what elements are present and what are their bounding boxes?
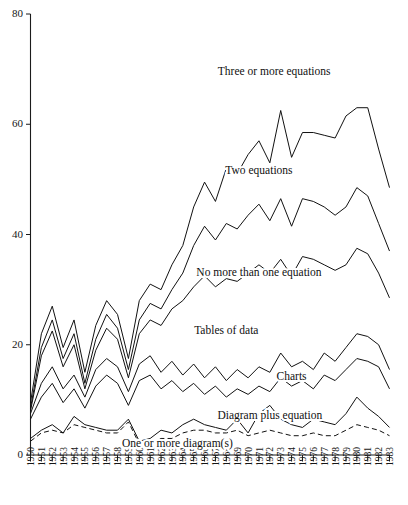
x-tick-label: 1951	[37, 447, 47, 466]
x-tick-label: 1982	[374, 447, 384, 466]
series-line-1	[31, 188, 390, 409]
x-tick-label: 1978	[331, 447, 341, 466]
y-tick-label: 60	[12, 117, 24, 129]
y-tick-label: 40	[12, 228, 24, 240]
x-tick-label: 1954	[70, 447, 80, 466]
x-tick-label: 1967	[211, 447, 221, 466]
x-tick-label: 1966	[200, 447, 210, 466]
x-tick-label: 1983	[385, 447, 395, 466]
series-label-3: Tables of data	[194, 324, 258, 336]
x-tick-label: 1964	[178, 447, 188, 466]
x-tick-label: 1981	[363, 447, 373, 466]
series-line-0	[31, 108, 390, 403]
x-tick-label: 1963	[168, 447, 178, 466]
x-tick-label: 1956	[91, 447, 101, 466]
y-tick-label: 20	[12, 338, 24, 350]
x-tick-label: 1953	[59, 447, 69, 466]
series-label-2: No more than one equation	[196, 266, 321, 279]
x-tick-label: 1957	[102, 447, 112, 466]
x-tick-label: 1974	[287, 447, 297, 466]
x-tick-label: 1980	[352, 447, 362, 466]
series-label-5: Diagram plus equation	[217, 409, 322, 422]
x-tick-label: 1958	[113, 447, 123, 466]
line-chart: 020406080 195019511952195319541955195619…	[0, 0, 408, 505]
y-tick-label: 80	[12, 7, 24, 19]
series-label-1: Two equations	[225, 164, 293, 177]
series-label-group: Three or more equationsThree or more equ…	[122, 65, 331, 450]
x-tick-label: 1976	[309, 447, 319, 466]
x-tick-label: 1965	[189, 447, 199, 466]
x-axis: 1950195119521953195419551956195719581959…	[26, 447, 395, 466]
x-tick-label: 1959	[124, 447, 134, 466]
series-line-5	[31, 397, 390, 441]
x-tick-label: 1962	[157, 447, 167, 466]
chart-container: 020406080 195019511952195319541955195619…	[0, 0, 408, 505]
x-tick-label: 1950	[26, 447, 36, 466]
x-tick-label: 1952	[48, 447, 58, 466]
y-axis: 020406080	[12, 7, 31, 460]
x-tick-label: 1955	[80, 447, 90, 466]
x-tick-label: 1973	[276, 447, 286, 466]
y-tick-label: 0	[18, 448, 24, 460]
x-tick-label: 1968	[222, 447, 232, 466]
x-tick-label: 1971	[255, 447, 265, 466]
x-tick-label: 1969	[233, 447, 243, 466]
x-tick-label: 1979	[342, 447, 352, 466]
x-tick-label: 1975	[298, 447, 308, 466]
x-tick-label: 1970	[244, 447, 254, 466]
series-label-0: Three or more equations	[218, 65, 331, 78]
x-tick-label: 1960	[135, 447, 145, 466]
series-line-3	[31, 334, 390, 414]
x-tick-label: 1977	[320, 447, 330, 466]
x-tick-label: 1961	[146, 447, 156, 466]
x-tick-label: 1972	[265, 447, 275, 466]
series-label-4: Charts	[277, 370, 308, 382]
series-label-6: One or more diagram(s)	[122, 437, 233, 450]
